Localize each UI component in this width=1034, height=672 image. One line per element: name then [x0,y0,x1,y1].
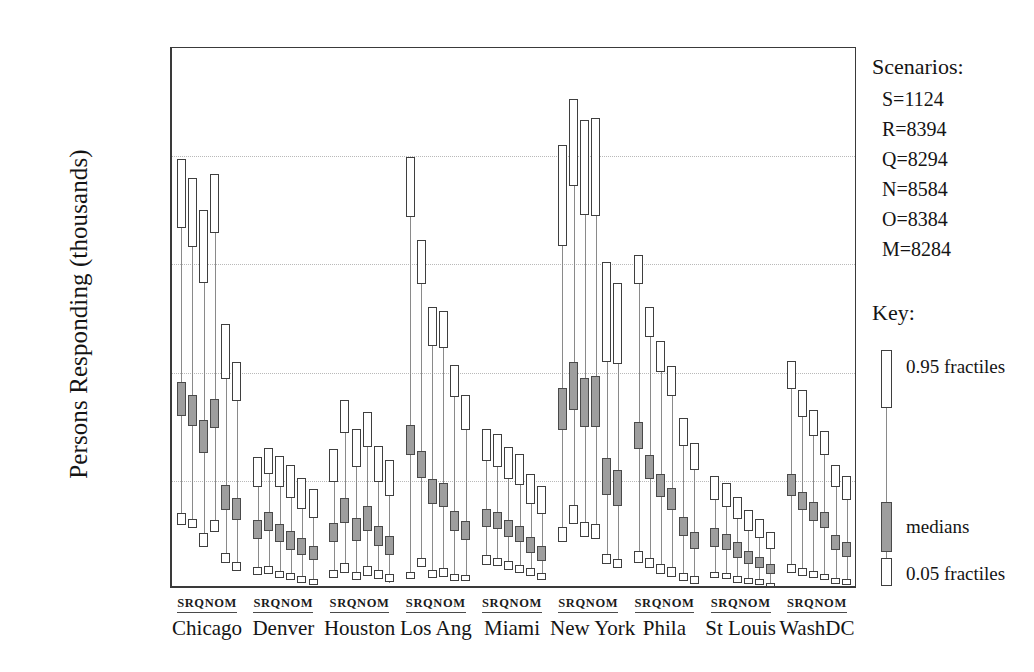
glyph-phila-Q-p05-box [656,564,665,574]
x-scenario-row: SRQNOM [703,593,779,613]
glyph-denver-N-p05-box [286,573,295,581]
key-label-lower: 0.05 fractiles [906,563,1005,585]
glyph-phila-R-p05-box [645,558,654,569]
y-axis-title: Persons Responding (thousands) [65,84,93,544]
glyph-houston-Q-median-box [352,518,361,542]
glyph-los-ang-N-p95-box [439,311,448,348]
scenarios-legend: Scenarios: S=1124R=8394Q=8294N=8584O=838… [872,54,1034,268]
glyph-houston-N-p95-box [363,412,372,448]
glyph-washdc-Q-p05-box [809,571,818,579]
glyph-miami-N-p95-box [515,454,524,485]
x-scenario-codes: SRQNOM [253,596,313,613]
x-group-washdc: SRQNOMWashDC [779,593,855,641]
glyph-miami-Q-median-box [504,520,513,537]
glyph-new-york-R-median-box [569,362,578,411]
glyph-los-ang-S-median-box [406,425,415,455]
glyph-phila-O-p95-box [679,418,688,446]
glyph-chicago-N-p95-box [210,174,219,234]
glyph-washdc-R-median-box [798,492,807,510]
glyph-denver-M-p05-box [309,579,318,584]
key-glyph-p95-box [881,350,892,408]
glyph-st-louis-M-median-box [766,564,775,574]
glyph-new-york-Q-p95-box [580,120,589,214]
x-scenario-codes: SRQNOM [482,596,542,613]
glyph-los-ang-R-median-box [417,451,426,478]
glyph-new-york-N-median-box [591,376,600,427]
glyph-miami-O-p95-box [526,474,535,503]
glyph-los-ang-Q-p05-box [428,570,437,579]
glyph-miami-M-p95-box [537,486,546,514]
x-city-label: WashDC [779,616,855,641]
x-scenario-codes: SRQNOM [635,596,695,613]
glyph-st-louis-N-p95-box [744,510,753,531]
x-scenario-row: SRQNOM [245,593,321,613]
glyph-st-louis-S-p95-box [710,476,719,500]
glyph-washdc-O-p05-box [831,578,840,583]
x-group-los-ang: SRQNOMLos Ang [398,593,474,641]
glyph-phila-N-p95-box [667,366,676,396]
glyph-washdc-N-p95-box [820,431,829,455]
glyph-chicago-N-p05-box [210,520,219,532]
x-group-chicago: SRQNOMChicago [169,593,245,641]
scenario-legend-item-N: N=8584 [882,178,1034,201]
glyph-los-ang-O-p95-box [450,365,459,397]
glyph-denver-S-p95-box [253,457,262,487]
glyph-phila-N-stem [672,366,673,577]
glyph-phila-N-median-box [667,488,676,510]
glyph-houston-R-p05-box [340,563,349,573]
glyph-los-ang-Q-stem [432,307,433,579]
glyph-miami-R-p95-box [493,434,502,466]
gridline-20 [172,373,855,374]
glyph-st-louis-O-median-box [755,557,764,569]
glyph-houston-Q-p95-box [352,429,361,467]
scenarios-legend-title: Scenarios: [872,54,1034,80]
glyph-los-ang-O-p05-box [450,574,459,582]
x-city-label: Phila [626,616,702,641]
x-scenario-codes: SRQNOM [406,596,466,613]
glyph-phila-N-p05-box [667,567,676,577]
glyph-st-louis-M-p05-box [766,583,775,587]
glyph-denver-N-median-box [286,531,295,550]
glyph-los-ang-M-median-box [461,521,470,540]
glyph-los-ang-N-p05-box [439,568,448,577]
glyph-denver-S-median-box [253,520,262,539]
glyph-st-louis-O-p95-box [755,519,764,538]
glyph-miami-S-p05-box [482,555,491,565]
glyph-miami-M-p05-box [537,573,546,581]
chart-root: Persons Responding (thousands) 010203040… [0,0,1034,672]
glyph-new-york-M-p05-box [613,559,622,569]
glyph-new-york-M-p95-box [613,283,622,364]
glyph-chicago-Q-p05-box [199,533,208,547]
glyph-washdc-O-p95-box [831,465,840,488]
glyph-houston-O-p05-box [374,570,383,580]
x-scenario-codes: SRQNOM [558,596,618,613]
glyph-houston-N-p05-box [363,566,372,576]
x-group-houston: SRQNOMHouston [321,593,397,641]
glyph-phila-M-median-box [690,532,699,549]
glyph-los-ang-M-p05-box [461,575,470,581]
glyph-denver-Q-p95-box [275,456,284,487]
glyph-chicago-R-p05-box [188,519,197,529]
glyph-phila-R-stem [650,307,651,569]
glyph-phila-O-median-box [679,517,688,536]
glyph-chicago-S-p05-box [177,513,186,525]
glyph-new-york-N-p95-box [591,118,600,215]
x-scenario-row: SRQNOM [474,593,550,613]
glyph-miami-R-median-box [493,512,502,529]
glyph-new-york-Q-p05-box [580,522,589,537]
x-scenario-row: SRQNOM [398,593,474,613]
glyph-st-louis-Q-median-box [733,542,742,557]
glyph-phila-S-p05-box [634,551,643,563]
glyph-new-york-M-median-box [613,470,622,506]
glyph-phila-S-median-box [634,422,643,449]
glyph-st-louis-R-median-box [722,534,731,550]
glyph-denver-R-p05-box [264,566,273,574]
x-city-label: Los Ang [398,616,474,641]
glyph-los-ang-M-p95-box [461,395,470,430]
glyph-houston-R-p95-box [340,400,349,434]
glyph-washdc-S-stem [791,361,792,573]
glyph-miami-R-p05-box [493,558,502,567]
x-scenario-row: SRQNOM [779,593,855,613]
glyph-miami-M-median-box [537,546,546,561]
glyph-chicago-O-median-box [221,485,230,510]
